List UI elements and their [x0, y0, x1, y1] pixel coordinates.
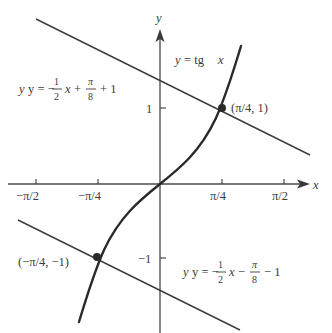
x-tick-label: −π/2	[16, 189, 39, 203]
x-tick-label: π/2	[272, 189, 288, 203]
svg-text:8: 8	[252, 274, 257, 285]
svg-text:+: +	[74, 82, 81, 96]
point-lower	[93, 253, 101, 261]
svg-text:x: x	[217, 53, 224, 67]
svg-text:x: x	[228, 265, 235, 279]
equation-upper: y y = − 1 2 x + π 8 + 1	[17, 76, 116, 102]
y-axis: y 1 −1	[138, 11, 166, 333]
y-tick-label: −1	[138, 252, 151, 266]
svg-text:8: 8	[88, 91, 93, 102]
equation-lower: y y = − 1 2 x − π 8 − 1	[181, 259, 280, 285]
y-tick-label: 1	[146, 102, 152, 116]
svg-text:− 1: − 1	[264, 265, 280, 279]
svg-text:y: y	[181, 265, 189, 279]
svg-text:2: 2	[218, 274, 223, 285]
svg-text:y = −: y = −	[28, 82, 55, 96]
svg-text:1: 1	[54, 76, 59, 87]
svg-text:x: x	[64, 82, 71, 96]
curve-label: y = tg x	[173, 53, 224, 67]
point-label-upper: (π/4, 1)	[231, 101, 268, 115]
svg-text:1: 1	[218, 259, 223, 270]
point-upper	[218, 104, 226, 112]
svg-text:y: y	[173, 53, 181, 67]
x-tick-label: π/4	[210, 189, 227, 203]
svg-text:2: 2	[54, 91, 59, 102]
point-label-lower: (−π/4, −1)	[18, 255, 69, 269]
x-axis-label: x	[312, 178, 319, 192]
svg-text:π: π	[252, 259, 258, 270]
svg-text:−: −	[238, 265, 245, 279]
svg-text:y = −: y = −	[192, 265, 219, 279]
svg-text:= tg: = tg	[184, 53, 205, 67]
x-tick-label: −π/4	[78, 189, 102, 203]
y-axis-label: y	[154, 11, 162, 25]
svg-text:+ 1: + 1	[100, 82, 116, 96]
svg-text:y: y	[17, 82, 25, 96]
svg-text:π: π	[88, 76, 94, 87]
tangent-diagram: x −π/2 −π/4 π/4 π/2 y 1 −1 (π/4, 1) (−π/…	[0, 0, 332, 333]
